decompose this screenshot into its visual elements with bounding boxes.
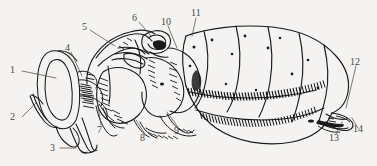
label-1: 1 [10,65,15,75]
label-9: 9 [174,126,179,136]
label-13: 13 [329,133,339,143]
label-3: 3 [50,143,55,153]
label-7: 7 [97,125,102,135]
label-8: 8 [140,133,145,143]
label-5: 5 [82,22,87,32]
label-12: 12 [350,57,360,67]
label-11: 11 [191,8,201,18]
label-10: 10 [161,17,171,27]
label-2: 2 [10,112,15,122]
label-14: 14 [353,124,363,134]
insect-lateral-illustration [0,0,377,166]
figure-container: 1 2 3 4 5 6 7 8 9 10 11 12 13 14 [0,0,377,166]
label-6: 6 [132,13,137,23]
label-4: 4 [65,43,70,53]
